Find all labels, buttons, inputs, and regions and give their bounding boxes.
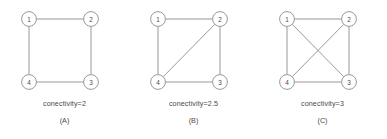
node-label-4: 4 [285,79,289,86]
node-label-4: 4 [156,79,160,86]
panel-caption-c: conectivity=3 [301,100,344,107]
node-3: 3 [213,75,228,90]
node-label-1: 1 [27,16,31,23]
panel-letter-c: (C) [318,117,328,124]
panel-letter-a: (A) [60,117,70,124]
panel-letter-b: (B) [189,117,199,124]
node-label-1: 1 [156,16,160,23]
panel-caption-a: conectivity=2 [43,100,86,107]
panel-a: 1234conectivity=2(A) [0,0,129,139]
graph-c: 1234 [258,0,387,96]
graph-canvas-b: 1234 [129,0,258,96]
node-label-3: 3 [218,79,222,86]
node-3: 3 [342,75,357,90]
node-1: 1 [280,12,295,27]
panel-caption-b: conectivity=2.5 [169,100,218,107]
node-2: 2 [213,12,228,27]
graph-canvas-a: 1234 [0,0,129,96]
node-label-2: 2 [89,16,93,23]
node-1: 1 [22,12,37,27]
node-3: 3 [84,75,99,90]
node-label-1: 1 [285,16,289,23]
node-label-3: 3 [89,79,93,86]
node-label-2: 2 [218,16,222,23]
node-1: 1 [151,12,166,27]
node-4: 4 [280,75,295,90]
graph-a: 1234 [0,0,129,96]
graph-canvas-c: 1234 [258,0,387,96]
node-label-4: 4 [27,79,31,86]
node-label-2: 2 [347,16,351,23]
edge-4-2 [163,24,215,76]
node-4: 4 [22,75,37,90]
node-2: 2 [342,12,357,27]
node-2: 2 [84,12,99,27]
panel-b: 1234conectivity=2.5(B) [129,0,258,139]
panel-c: 1234conectivity=3(C) [258,0,387,139]
graph-b: 1234 [129,0,258,96]
node-4: 4 [151,75,166,90]
node-label-3: 3 [347,79,351,86]
graph-connectivity-figure: 1234conectivity=2(A)1234conectivity=2.5(… [0,0,387,139]
